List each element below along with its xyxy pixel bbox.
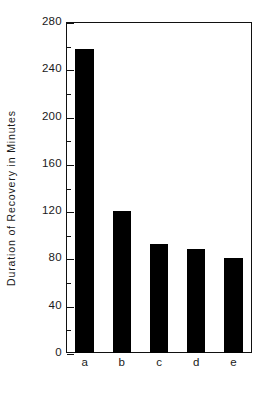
x-axis-tick-label-e: e [230,357,236,369]
y-axis-title: Duration of Recovery in Minutes [0,0,22,396]
bar-d [187,249,206,353]
y-axis-tick-label: 240 [26,64,62,76]
y-axis-tick-label: 40 [26,300,62,312]
x-axis-tick-label-d: d [193,357,199,369]
x-axis-tick-label-c: c [156,357,162,369]
x-axis-tick-labels: abcde [66,357,252,377]
y-axis-tick-label: 200 [26,111,62,123]
y-axis-tick-label: 80 [26,253,62,265]
y-axis-tick-label: 160 [26,158,62,170]
bar-e [224,258,243,353]
y-axis-tick-label: 280 [26,16,62,28]
bar-b [113,211,132,353]
bar-a [75,49,94,353]
bar-c [150,244,169,353]
y-axis-tick-label: 0 [26,347,62,359]
y-axis-tick-labels: 04080120160200240280 [22,22,62,353]
x-axis-tick-label-a: a [81,357,87,369]
y-axis-tick-label: 120 [26,205,62,217]
bar-chart-figure: Duration of Recovery in Minutes 04080120… [0,0,276,396]
bar-series [66,22,252,353]
x-axis-tick-label-b: b [119,357,125,369]
y-axis-major-tick [67,354,74,355]
